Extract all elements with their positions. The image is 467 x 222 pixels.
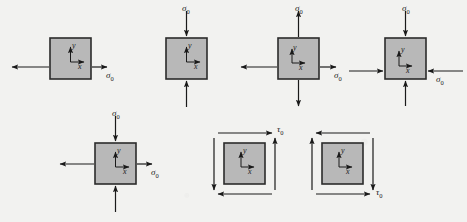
element-uniaxial-compression-y — [166, 11, 207, 107]
stress-block — [224, 143, 265, 184]
element-biaxial-compression — [349, 11, 463, 106]
stress-element-figure — [0, 0, 467, 222]
stress-block — [322, 143, 363, 184]
element-uniaxial-tension — [12, 38, 107, 79]
element-biaxial-tension — [241, 11, 336, 106]
element-pure-shear-positive — [214, 133, 275, 194]
element-tension-compression — [60, 116, 152, 212]
stress-block — [278, 38, 319, 79]
element-pure-shear-negative — [312, 133, 373, 194]
stress-block — [385, 38, 426, 79]
